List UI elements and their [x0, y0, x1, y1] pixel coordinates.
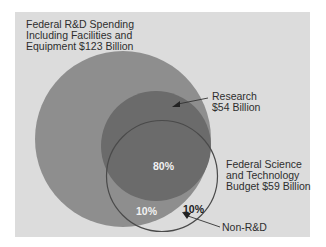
st-budget-label: Federal Science and Technology Budget $5… — [226, 159, 311, 192]
region-other-rd-pct: 10% — [136, 205, 157, 217]
non-rd-label-text: Non-R&D — [222, 222, 267, 233]
research-circle — [101, 91, 211, 201]
non-rd-label: Non-R&D — [222, 222, 267, 233]
research-label: Research $54 Billion — [212, 91, 260, 113]
rd-total-label: Federal R&D Spending Including Facilitie… — [26, 19, 134, 52]
region-non-rd-pct: 10% — [183, 203, 204, 215]
research-label-line-2: $54 Billion — [212, 102, 260, 113]
st-budget-label-line-3: Budget $59 Billion — [226, 181, 311, 192]
region-research-pct: 80% — [153, 160, 174, 172]
rd-total-label-line-3: Equipment $123 Billion — [26, 41, 134, 52]
